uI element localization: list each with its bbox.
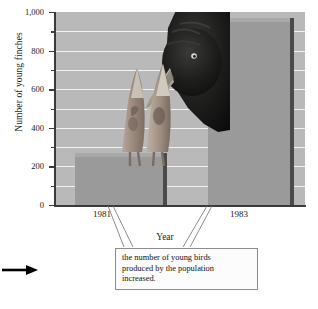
- callout-line-1: the number of young birds: [122, 253, 252, 264]
- callout-box: the number of young birds produced by th…: [115, 248, 258, 290]
- finch-population-figure: 1,000 800 600 400 200 0 Number of young …: [0, 0, 318, 309]
- callout-line-2: produced by the population: [122, 264, 252, 275]
- callout-line-3: increased.: [122, 274, 252, 285]
- right-arrow-icon: [2, 263, 40, 277]
